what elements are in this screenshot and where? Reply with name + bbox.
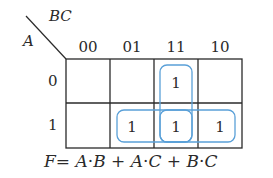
cell-0-11: 1 xyxy=(154,74,198,92)
row-header-1: 1 xyxy=(48,118,58,133)
boolean-formula: F= A·B + A·C + B·C xyxy=(44,151,217,171)
col-var-label: BC xyxy=(49,9,72,24)
col-header-10: 10 xyxy=(198,40,242,55)
row-var-label: A xyxy=(23,34,34,49)
cell-1-10: 1 xyxy=(198,118,242,136)
formula-lhs: F xyxy=(44,151,56,171)
col-header-00: 00 xyxy=(66,40,110,55)
col-header-11: 11 xyxy=(154,40,198,55)
cell-1-01: 1 xyxy=(110,118,154,136)
col-header-01: 01 xyxy=(110,40,154,55)
row-header-0: 0 xyxy=(48,74,58,89)
cell-1-11: 1 xyxy=(154,118,198,136)
